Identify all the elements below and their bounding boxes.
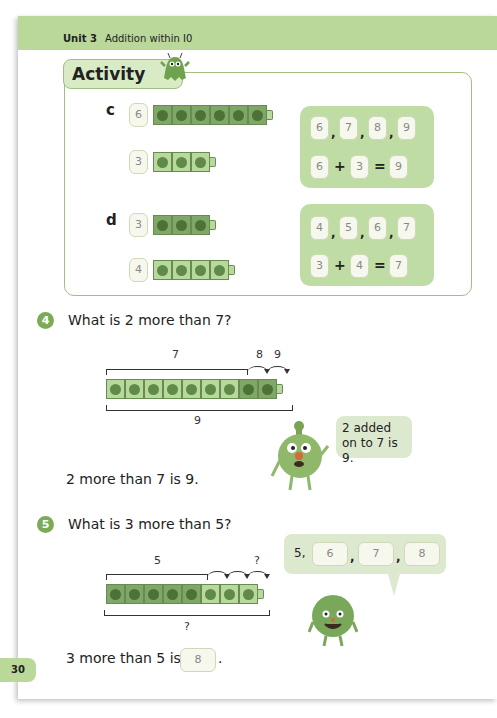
speech-sequence-box[interactable]: 7 — [358, 542, 394, 566]
unit-title: Addition within I0 — [105, 33, 192, 44]
equation-addend-b[interactable]: 3 — [350, 155, 369, 179]
cube-train-d1 — [153, 215, 216, 235]
brace-total — [104, 610, 270, 616]
answer-panel-d: 4 , 5 , 6 , 7 3 + 4 = 7 — [300, 204, 434, 286]
q4-step-label-9: 9 — [274, 348, 281, 361]
cube-train-d2 — [153, 260, 235, 280]
plus-sign: + — [334, 158, 346, 174]
q5-step-label: ? — [254, 554, 260, 567]
q5-answer-box[interactable]: 8 — [180, 648, 216, 672]
speech-tail — [388, 574, 400, 596]
brace-five — [106, 574, 208, 580]
cube-train-q5 — [106, 584, 264, 604]
page-number: 30 — [0, 658, 36, 682]
jump-arrow-icon — [228, 571, 247, 581]
equation-result[interactable]: 7 — [389, 254, 408, 278]
brace-seven — [106, 369, 248, 375]
q4-answer-text: 2 more than 7 is 9. — [66, 471, 199, 487]
equals-sign: = — [374, 158, 386, 174]
equation-addend-a[interactable]: 3 — [310, 254, 329, 278]
speech-prefix: 5, — [294, 546, 305, 560]
part-c-letter: c — [106, 101, 115, 119]
question-4-text: What is 2 more than 7? — [68, 312, 232, 328]
q4-bottom-label: 9 — [194, 414, 201, 427]
sequence-box[interactable]: 6 — [310, 116, 329, 140]
equals-sign: = — [374, 257, 386, 273]
equation-result[interactable]: 9 — [389, 155, 408, 179]
sequence-box[interactable]: 9 — [397, 116, 416, 140]
cube-train-c1 — [153, 105, 273, 125]
part-d-letter: d — [106, 211, 117, 229]
sequence-box[interactable]: 7 — [339, 116, 358, 140]
q4-step-label-8: 8 — [256, 348, 263, 361]
q5-top-label: 5 — [154, 554, 161, 567]
q5-bottom-label: ? — [184, 620, 190, 633]
activity-label: Activity — [72, 64, 145, 84]
equation-addend-b[interactable]: 4 — [350, 254, 369, 278]
q5-answer-suffix: . — [218, 650, 222, 666]
fuzzy-monster-icon — [268, 418, 330, 494]
sequence-box[interactable]: 5 — [339, 216, 358, 240]
count-box-c2[interactable]: 3 — [129, 150, 148, 174]
unit-label: Unit 3 — [63, 33, 97, 44]
workbook-page: Unit 3 Addition within I0 Activity c 6 3… — [18, 16, 497, 699]
sequence-box[interactable]: 7 — [397, 216, 416, 240]
plus-sign: + — [334, 257, 346, 273]
speech-sequence-box[interactable]: 6 — [312, 542, 348, 566]
jump-arrow-icon — [268, 366, 287, 376]
jump-arrow-icon — [208, 571, 227, 581]
brace-total — [106, 405, 293, 411]
cube-train-c2 — [153, 152, 216, 172]
count-box-c1[interactable]: 6 — [129, 103, 148, 127]
q4-speech-bubble: 2 added on to 7 is 9. — [336, 416, 412, 458]
sequence-box[interactable]: 8 — [368, 116, 387, 140]
speech-sequence-box[interactable]: 8 — [404, 542, 440, 566]
question-5-badge: 5 — [37, 516, 54, 533]
page-header: Unit 3 Addition within I0 — [18, 16, 497, 50]
count-box-d2[interactable]: 4 — [129, 258, 148, 282]
question-4-badge: 4 — [37, 312, 54, 329]
answer-panel-c: 6 , 7 , 8 , 9 6 + 3 = 9 — [300, 106, 434, 188]
cube-train-q4 — [106, 379, 283, 399]
round-monster-icon — [308, 590, 358, 650]
question-5-text: What is 3 more than 5? — [68, 516, 232, 532]
equation-addend-a[interactable]: 6 — [310, 155, 329, 179]
q4-top-label: 7 — [172, 348, 179, 361]
count-box-d1[interactable]: 3 — [129, 213, 148, 237]
monster-mascot-icon — [160, 52, 190, 84]
sequence-box[interactable]: 4 — [310, 216, 329, 240]
q5-speech-bubble: 5, 6 , 7 , 8 — [284, 534, 446, 574]
jump-arrow-icon — [248, 571, 267, 581]
jump-arrow-icon — [248, 366, 267, 376]
sequence-box[interactable]: 6 — [368, 216, 387, 240]
q5-answer-prefix: 3 more than 5 is — [66, 650, 181, 666]
